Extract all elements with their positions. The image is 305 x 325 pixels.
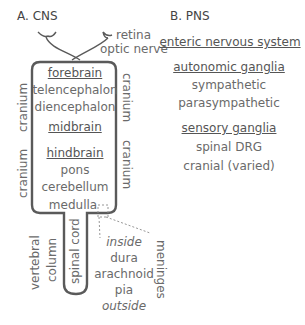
telencephalon-label: telencephalon [32,83,117,97]
meninges-callout [98,205,150,238]
arachnoid-label: arachnoid [94,267,154,281]
cerebellum-label: cerebellum [42,180,109,194]
pns-title: B. PNS [170,9,210,23]
pia-label: pia [115,283,133,297]
meninges-label: meninges [154,240,168,299]
cranium-right-top: cranium [120,73,134,122]
column-label: column [45,238,59,282]
cns-title: A. CNS [17,9,58,23]
enteric-label: enteric nervous system [159,35,300,49]
hindbrain-label: hindbrain [46,146,103,160]
optic-nerve-label: optic nerve [100,42,168,56]
retina-label: retina [116,28,151,42]
sensory-label: sensory ganglia [182,121,277,135]
pons-label: pons [61,163,90,177]
spinal-drg-label: spinal DRG [196,140,262,154]
forebrain-label: forebrain [48,66,102,80]
autonomic-label: autonomic ganglia [173,60,285,74]
vertebral-label: vertebral [28,235,42,290]
parasympathetic-label: parasympathetic [178,96,280,110]
cranium-left-top: cranium [16,83,30,132]
outside-label: outside [102,299,146,313]
inside-label: inside [106,235,142,249]
medulla-label: medulla [49,198,97,212]
dura-label: dura [110,251,138,265]
midbrain-label: midbrain [48,120,101,134]
diencephalon-label: diencephalon [35,100,116,114]
cranium-right-bottom: cranium [120,140,134,189]
cranial-label: cranial (varied) [183,159,274,173]
sympathetic-label: sympathetic [192,78,266,92]
spinal-cord-label: spinal cord [68,218,82,284]
cranium-left-bottom: cranium [16,149,30,198]
